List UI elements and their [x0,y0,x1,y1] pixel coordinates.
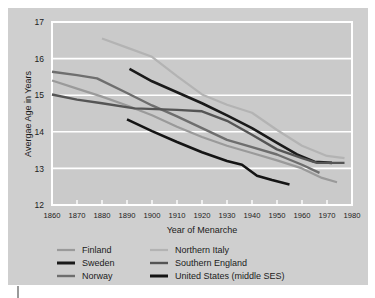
xtick-label-1930: 1930 [219,211,236,220]
legend-label-norway: Norway [82,271,113,281]
ytick-label-15: 15 [35,90,45,100]
xtick-label-1910: 1910 [169,211,186,220]
line-chart: 121314151617 186018701880189019001910192… [0,0,375,298]
xtick-label-1880: 1880 [94,211,111,220]
chart-legend: FinlandSwedenNorwayNorthern ItalySouther… [57,245,285,281]
ytick-label-12: 12 [35,200,45,210]
ytick-label-13: 13 [35,164,45,174]
ytick-label-14: 14 [35,127,45,137]
legend-label-sweden: Sweden [82,258,115,268]
xtick-label-1870: 1870 [69,211,86,220]
legend-label-united-states-middle-ses: United States (middle SES) [175,271,285,281]
legend-label-finland: Finland [82,245,112,255]
x-axis-tick-labels: 1860187018801890190019101920193019401950… [44,211,361,220]
y-axis-tick-labels: 121314151617 [35,17,45,210]
xtick-label-1970: 1970 [319,211,336,220]
ytick-label-17: 17 [35,17,45,27]
xtick-label-1960: 1960 [294,211,311,220]
xtick-label-1980: 1980 [344,211,361,220]
xtick-label-1890: 1890 [119,211,136,220]
xtick-label-1920: 1920 [194,211,211,220]
figure-root: 121314151617 186018701880189019001910192… [0,0,375,298]
y-axis-title: Avergae Age in Years [23,71,33,157]
xtick-label-1860: 1860 [44,211,61,220]
xtick-label-1950: 1950 [269,211,286,220]
plot-area-background [52,22,352,205]
ytick-label-16: 16 [35,54,45,64]
x-axis-title: Year of Menarche [167,225,238,235]
xtick-label-1940: 1940 [244,211,261,220]
legend-label-northern-italy: Northern Italy [175,245,230,255]
xtick-label-1900: 1900 [144,211,161,220]
legend-label-southern-england: Southern England [175,258,247,268]
